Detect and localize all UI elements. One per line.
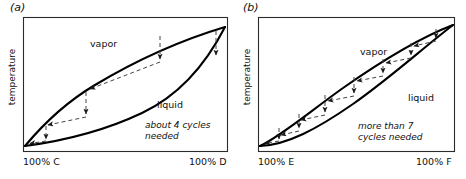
panel-b-liquid-label: liquid xyxy=(408,92,434,103)
panel-b-note-line1: more than 7 xyxy=(358,121,423,132)
panel-a: (a) temperature xyxy=(0,0,233,179)
panel-a-note-line2: needed xyxy=(145,131,210,142)
panel-a-plot xyxy=(0,0,233,179)
panel-a-note: about 4 cycles needed xyxy=(145,120,210,142)
panel-b-x-label-right: 100% F xyxy=(416,156,452,167)
panel-a-liquid-label: liquid xyxy=(157,99,183,110)
panel-a-vapor-label: vapor xyxy=(90,38,117,49)
panel-b: (b) temperature xyxy=(233,0,466,179)
panel-a-cycle-3-horizontal xyxy=(90,62,160,89)
panel-a-x-label-left: 100% C xyxy=(23,156,60,167)
panel-b-plot xyxy=(233,0,466,179)
panel-b-vapor-curve xyxy=(260,25,453,146)
panel-a-cycle-2-horizontal xyxy=(48,117,86,125)
panel-a-note-line1: about 4 cycles xyxy=(145,120,210,131)
panel-b-note: more than 7 cycles needed xyxy=(358,121,423,143)
figure-container: (a) temperature xyxy=(0,0,466,179)
panel-a-cycle-1 xyxy=(30,126,46,144)
panel-a-x-label-right: 100% D xyxy=(189,156,227,167)
panel-b-vapor-label: vapor xyxy=(360,46,387,57)
panel-a-cycle-2 xyxy=(48,92,86,125)
panel-b-note-line2: cycles needed xyxy=(358,132,423,143)
panel-b-x-label-left: 100% E xyxy=(258,156,294,167)
